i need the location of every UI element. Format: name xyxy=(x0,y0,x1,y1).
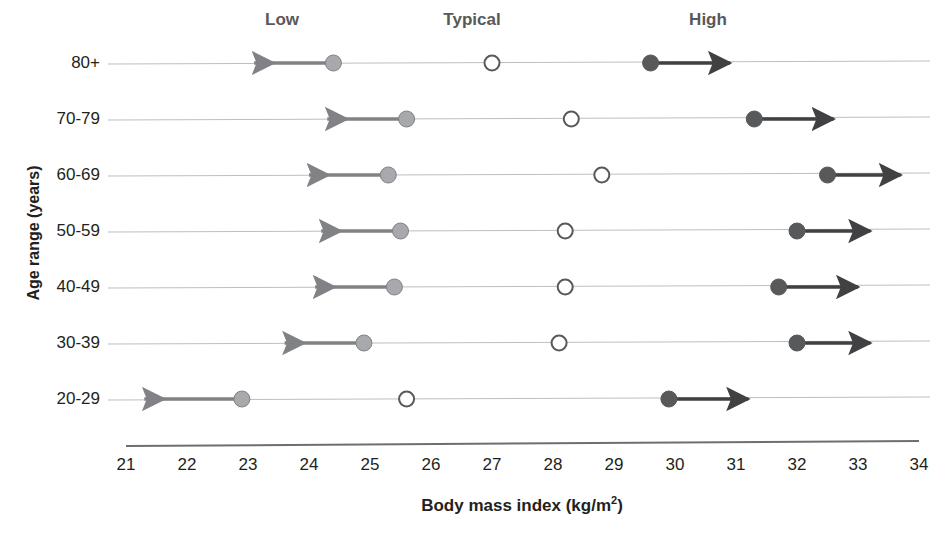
x-tick-label: 28 xyxy=(544,455,563,475)
x-tick-label: 27 xyxy=(483,455,502,475)
marker-low xyxy=(356,335,372,351)
row-baseline xyxy=(108,61,930,64)
x-axis-title-end: ) xyxy=(617,496,623,515)
chart-plot-area xyxy=(0,0,952,550)
x-tick-label: 26 xyxy=(422,455,441,475)
x-axis-line xyxy=(126,441,919,446)
column-header-typical: Typical xyxy=(443,10,500,30)
marker-low xyxy=(380,167,396,183)
marker-typical xyxy=(564,112,579,127)
marker-high xyxy=(746,111,762,127)
y-tick-label: 80+ xyxy=(0,53,100,73)
x-tick-label: 22 xyxy=(178,455,197,475)
marker-typical xyxy=(594,168,609,183)
y-axis-title: Age range (years) xyxy=(25,153,43,313)
x-tick-label: 29 xyxy=(605,455,624,475)
column-header-high: High xyxy=(689,10,727,30)
y-tick-label: 20-29 xyxy=(0,389,100,409)
marker-low xyxy=(399,111,415,127)
y-tick-label: 50-59 xyxy=(0,221,100,241)
x-tick-label: 23 xyxy=(239,455,258,475)
y-tick-label: 70-79 xyxy=(0,109,100,129)
x-tick-label: 31 xyxy=(727,455,746,475)
marker-high xyxy=(661,391,677,407)
marker-low xyxy=(386,279,402,295)
column-header-low: Low xyxy=(265,10,299,30)
x-tick-label: 25 xyxy=(361,455,380,475)
marker-typical xyxy=(558,280,573,295)
x-tick-label: 34 xyxy=(910,455,929,475)
marker-typical xyxy=(399,392,414,407)
marker-typical xyxy=(552,336,567,351)
x-axis-title: Body mass index (kg/m2) xyxy=(421,494,623,516)
x-axis-title-main: Body mass index (kg/m xyxy=(421,496,611,515)
marker-typical xyxy=(485,56,500,71)
marker-high xyxy=(820,167,836,183)
x-tick-label: 33 xyxy=(849,455,868,475)
marker-high xyxy=(643,55,659,71)
marker-high xyxy=(789,223,805,239)
marker-typical xyxy=(558,224,573,239)
marker-high xyxy=(771,279,787,295)
row-baseline xyxy=(108,173,930,176)
marker-low xyxy=(325,55,341,71)
y-tick-label: 30-39 xyxy=(0,333,100,353)
x-tick-label: 30 xyxy=(666,455,685,475)
y-tick-label: 60-69 xyxy=(0,165,100,185)
x-tick-label: 24 xyxy=(300,455,319,475)
x-tick-label: 32 xyxy=(788,455,807,475)
x-tick-label: 21 xyxy=(117,455,136,475)
marker-high xyxy=(789,335,805,351)
bmi-age-range-chart: LowTypicalHigh 80+70-7960-6950-5940-4930… xyxy=(0,0,952,550)
marker-low xyxy=(393,223,409,239)
marker-low xyxy=(234,391,250,407)
y-tick-label: 40-49 xyxy=(0,277,100,297)
